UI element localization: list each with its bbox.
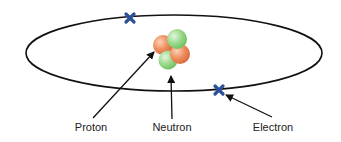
proton-arrow [93, 52, 154, 118]
nucleus [153, 29, 190, 70]
neutron-sphere [167, 29, 187, 49]
electron-arrow [226, 95, 272, 117]
neutron-arrow [171, 76, 172, 119]
electron-label: Electron [253, 121, 293, 133]
electron-marker-top [126, 14, 134, 22]
proton-label: Proton [75, 121, 107, 133]
neutron-label: Neutron [152, 121, 191, 133]
